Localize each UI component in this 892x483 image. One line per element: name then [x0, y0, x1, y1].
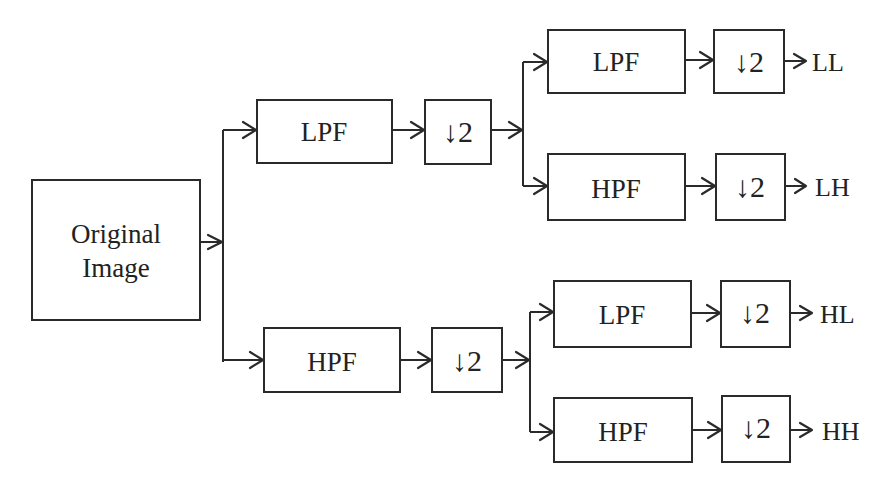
ll-downsample-block: ↓2: [714, 30, 784, 93]
downsample-label: ↓2: [734, 45, 764, 78]
downsample-label: ↓2: [740, 296, 770, 329]
downsample-label: ↓2: [452, 344, 482, 377]
output-hh-label: HH: [822, 417, 860, 446]
level1-lpf-block: LPF: [257, 100, 392, 163]
hh-downsample-block: ↓2: [722, 396, 790, 462]
level1-hpf-block: HPF: [264, 328, 400, 392]
filter-bank-diagram: Original Image LPF ↓2 LPF ↓2: [0, 0, 892, 483]
hh-hpf-block: HPF: [554, 398, 692, 462]
output-ll-label: LL: [812, 48, 844, 77]
output-hl-label: HL: [820, 300, 855, 329]
level1-hpf-label: HPF: [307, 347, 357, 377]
level1-low-downsample-block: ↓2: [425, 100, 491, 164]
output-lh-label: LH: [815, 173, 850, 202]
downsample-label: ↓2: [735, 170, 765, 203]
downsample-label: ↓2: [443, 115, 473, 148]
hl-lpf-block: LPF: [554, 281, 691, 347]
downsample-label: ↓2: [741, 411, 771, 444]
ll-lpf-block: LPF: [548, 30, 685, 93]
original-image-block: Original Image: [32, 180, 200, 320]
level2-lower-split-connector: [502, 304, 554, 440]
level1-split-connector: [200, 122, 264, 368]
lh-hpf-label: HPF: [591, 174, 641, 204]
lh-hpf-block: HPF: [548, 154, 685, 220]
level1-high-downsample-block: ↓2: [432, 328, 502, 392]
original-image-label-line2: Image: [82, 253, 149, 283]
hh-hpf-label: HPF: [598, 417, 648, 447]
ll-lpf-label: LPF: [593, 47, 640, 77]
lh-downsample-block: ↓2: [716, 154, 785, 220]
original-image-label-line1: Original: [71, 219, 161, 249]
hl-lpf-label: LPF: [599, 300, 646, 330]
hl-downsample-block: ↓2: [721, 281, 790, 347]
level2-upper-split-connector: [491, 54, 548, 194]
level1-lpf-label: LPF: [301, 117, 348, 147]
